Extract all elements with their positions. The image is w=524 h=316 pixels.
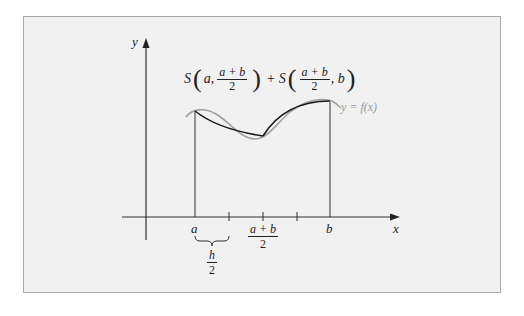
tick-label-mid-den: 2 [260,237,266,251]
function-curve-label: y = f(x) [341,100,377,115]
y-axis-label: y [132,34,138,50]
expr-right-arg2: , b [331,71,345,87]
tick-label-a: a [191,221,198,237]
expr-left-paren: ( [193,66,202,92]
x-axis-label: x [393,221,399,237]
x-axis-arrow-icon [390,214,400,221]
brace-label: h 2 [206,248,218,277]
tick-label-midpoint: a + b 2 [246,222,280,251]
simpson-rule-diagram [0,0,524,316]
approximation-curve-right [263,101,330,136]
x-axis [122,214,400,221]
y-axis-arrow-icon [143,38,150,48]
expr-right-S: S [279,71,286,87]
expr-right-rparen: ) [347,66,356,92]
expr-right-paren: ( [288,66,297,92]
simpson-expression: S ( a, a + b 2 ) + S ( a + b 2 , b ) [184,64,357,94]
y-axis [143,38,150,240]
expr-left-arg1: a, [204,71,215,87]
brace-h-over-2 [195,236,229,246]
expr-left-rparen: ) [252,66,261,92]
expr-right-fraction: a + b 2 [300,66,330,93]
expr-plus: + [267,71,275,87]
expr-left-frac-den: 2 [229,80,235,93]
expr-left-frac-num: a + b [217,66,247,80]
tick-label-b: b [326,221,333,237]
brace-label-num: h [207,248,217,263]
brace-label-den: 2 [209,263,215,277]
expr-right-frac-den: 2 [312,80,318,93]
tick-label-mid-num: a + b [248,222,278,237]
expr-left-S: S [184,71,191,87]
expr-right-frac-num: a + b [300,66,330,80]
expr-left-fraction: a + b 2 [217,66,247,93]
